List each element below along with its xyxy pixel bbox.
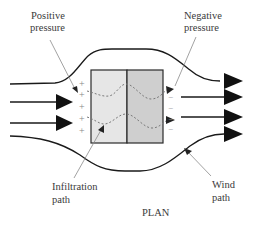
minus-sign: −	[168, 123, 173, 135]
small-arrowhead-icon	[72, 86, 78, 93]
arrow-right-icon	[224, 109, 243, 125]
building	[91, 70, 163, 143]
arrow-right-icon	[56, 94, 73, 110]
leader-wind-path	[188, 152, 211, 176]
diagram-title: PLAN	[142, 207, 169, 219]
plus-sign: +	[79, 113, 85, 125]
label-line: pressure	[184, 22, 219, 34]
plus-sign: +	[79, 125, 85, 137]
label-line: pressure	[30, 22, 65, 34]
label-line: Negative	[184, 10, 222, 22]
building-leeward-half	[127, 70, 163, 143]
outgoing-wind-arrows	[181, 89, 243, 125]
infiltration-plan-diagram: + + + + + − − − − Positive pressure Nega…	[0, 0, 254, 228]
incoming-wind-arrows	[10, 94, 73, 131]
label-line: Wind	[212, 179, 235, 191]
arrow-right-icon	[224, 89, 243, 105]
label-line: path	[212, 192, 230, 204]
label-line: path	[52, 194, 70, 206]
plus-sign: +	[79, 101, 85, 113]
small-arrowhead-icon	[184, 148, 192, 155]
arrow-right-icon	[56, 115, 73, 131]
plus-sign: +	[79, 89, 85, 101]
label-line: Positive	[31, 10, 65, 22]
building-windward-half	[91, 70, 127, 143]
arrowhead-top-right-icon	[224, 73, 243, 89]
arrowhead-bottom-right-icon	[224, 126, 243, 142]
label-line: Infiltration	[52, 181, 98, 193]
